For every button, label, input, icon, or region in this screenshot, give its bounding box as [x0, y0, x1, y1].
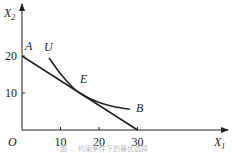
figure-caption: 图 … 约束条件下的最优选择: [60, 144, 148, 153]
indifference-curve-u: [49, 58, 130, 109]
curve-label-u: U: [44, 40, 54, 54]
point-label-b: B: [136, 101, 144, 115]
chart: 1020301020 X2 X1 O A U E B 图 … 约束条件下的最优选…: [0, 0, 232, 153]
point-label-a: A: [24, 39, 33, 53]
y-axis-label: X2: [3, 6, 15, 22]
point-label-e: E: [79, 72, 88, 86]
y-tick-label: 10: [5, 86, 17, 100]
x-axis-label: X1: [213, 135, 225, 151]
origin-label: O: [8, 135, 17, 149]
y-tick-label: 20: [5, 49, 17, 63]
